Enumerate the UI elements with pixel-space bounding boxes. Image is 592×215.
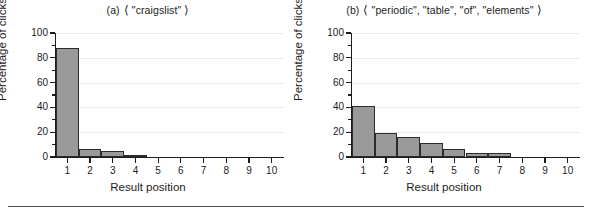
x-tick-5-a: [158, 158, 159, 163]
gridline-y-100-a: [56, 33, 283, 34]
plot-area-a: 02040608010012345678910: [56, 33, 283, 157]
gridline-y-100-b: [352, 33, 579, 34]
x-tick-label-7-b: 7: [497, 166, 503, 176]
plot-area-b: 02040608010012345678910: [352, 33, 579, 157]
x-tick-label-1-b: 1: [361, 166, 367, 176]
x-tick-6-b: [476, 158, 477, 163]
x-tick-9-a: [248, 158, 249, 163]
figure-bottom-rule: [8, 206, 584, 207]
x-tick-9-b: [544, 158, 545, 163]
y-tick-label-0-b: 0: [338, 152, 344, 162]
figure-two-panel-bar-charts: (a)⟨ "craigslist" ⟩ 02040608010012345678…: [0, 0, 592, 215]
gridline-y-80-b: [352, 58, 579, 59]
y-tick-label-0-a: 0: [42, 152, 48, 162]
x-tick-3-b: [408, 158, 409, 163]
y-tick-label-100-a: 100: [31, 28, 48, 38]
y-tick-major-80-b: [346, 57, 351, 58]
angle-bracket-close-icon: ⟩: [537, 3, 542, 17]
x-tick-label-6-b: 6: [474, 166, 480, 176]
y-tick-label-20-a: 20: [37, 127, 48, 137]
x-tick-10-b: [567, 158, 568, 163]
x-tick-2-a: [89, 158, 90, 163]
y-tick-minor-30-a: [52, 119, 55, 120]
y-tick-major-100-a: [50, 32, 55, 33]
bar-1-b: [352, 106, 375, 157]
y-tick-label-20-b: 20: [333, 127, 344, 137]
y-tick-minor-30-b: [348, 119, 351, 120]
panel-b-tag: (b): [346, 4, 359, 16]
gridline-y-80-a: [56, 58, 283, 59]
bar-2-a: [79, 149, 102, 157]
panel-a-tag: (a): [107, 4, 120, 16]
gridline-y-60-a: [56, 83, 283, 84]
x-tick-label-4-a: 4: [133, 166, 139, 176]
y-tick-minor-90-a: [52, 45, 55, 46]
panel-a: (a)⟨ "craigslist" ⟩ 02040608010012345678…: [0, 0, 296, 200]
y-tick-major-40-b: [346, 107, 351, 108]
x-tick-4-b: [431, 158, 432, 163]
y-tick-minor-70-a: [52, 70, 55, 71]
bar-6-b: [466, 153, 489, 157]
bar-4-b: [420, 143, 443, 157]
x-tick-2-b: [385, 158, 386, 163]
x-tick-1-b: [363, 158, 364, 163]
bar-5-b: [443, 149, 466, 157]
x-tick-label-3-a: 3: [110, 166, 116, 176]
x-tick-label-2-b: 2: [383, 166, 389, 176]
y-tick-major-80-a: [50, 57, 55, 58]
angle-bracket-open-icon: ⟨: [363, 3, 368, 17]
bar-1-a: [56, 48, 79, 157]
x-tick-label-8-b: 8: [519, 166, 525, 176]
x-axis-title-b: Result position: [296, 181, 592, 193]
y-tick-major-100-b: [346, 32, 351, 33]
x-tick-label-5-a: 5: [155, 166, 161, 176]
x-tick-label-7-a: 7: [201, 166, 207, 176]
y-tick-major-0-b: [346, 156, 351, 157]
y-tick-minor-10-a: [52, 144, 55, 145]
y-axis-title-b: Percentage of clicks: [292, 0, 304, 101]
gridline-y-60-b: [352, 83, 579, 84]
y-tick-minor-70-b: [348, 70, 351, 71]
x-tick-label-6-a: 6: [178, 166, 184, 176]
x-tick-7-a: [203, 158, 204, 163]
x-tick-8-a: [226, 158, 227, 163]
x-tick-3-a: [112, 158, 113, 163]
x-tick-label-9-a: 9: [246, 166, 252, 176]
bar-2-b: [375, 133, 398, 157]
y-axis-title-a: Percentage of clicks: [0, 0, 8, 101]
y-tick-label-60-b: 60: [333, 78, 344, 88]
x-tick-label-4-b: 4: [429, 166, 435, 176]
angle-bracket-open-icon: ⟨: [124, 3, 129, 17]
panel-b-title: (b)⟨ "periodic", "table", "of", "element…: [296, 3, 592, 17]
x-tick-label-2-a: 2: [87, 166, 93, 176]
gridline-y-20-a: [56, 132, 283, 133]
x-tick-label-8-a: 8: [223, 166, 229, 176]
y-tick-major-0-a: [50, 156, 55, 157]
y-tick-major-40-a: [50, 107, 55, 108]
y-tick-label-60-a: 60: [37, 78, 48, 88]
y-tick-minor-90-b: [348, 45, 351, 46]
x-tick-6-a: [180, 158, 181, 163]
x-tick-label-9-b: 9: [542, 166, 548, 176]
x-axis-title-a: Result position: [0, 181, 296, 193]
x-tick-label-5-b: 5: [451, 166, 457, 176]
y-tick-label-80-a: 80: [37, 53, 48, 63]
bar-4-a: [124, 155, 147, 157]
y-tick-label-40-b: 40: [333, 102, 344, 112]
x-tick-label-3-b: 3: [406, 166, 412, 176]
y-tick-major-60-b: [346, 82, 351, 83]
panel-b: (b)⟨ "periodic", "table", "of", "element…: [296, 0, 592, 200]
y-tick-label-40-a: 40: [37, 102, 48, 112]
x-tick-label-1-a: 1: [65, 166, 71, 176]
y-tick-major-60-a: [50, 82, 55, 83]
y-tick-minor-10-b: [348, 144, 351, 145]
x-tick-1-a: [67, 158, 68, 163]
y-tick-minor-50-b: [348, 94, 351, 95]
x-tick-5-b: [454, 158, 455, 163]
bar-3-a: [101, 151, 124, 157]
x-tick-label-10-a: 10: [266, 166, 277, 176]
x-tick-8-b: [522, 158, 523, 163]
panel-a-query: "craigslist": [132, 4, 182, 16]
y-tick-label-80-b: 80: [333, 53, 344, 63]
panel-a-title: (a)⟨ "craigslist" ⟩: [0, 3, 296, 17]
